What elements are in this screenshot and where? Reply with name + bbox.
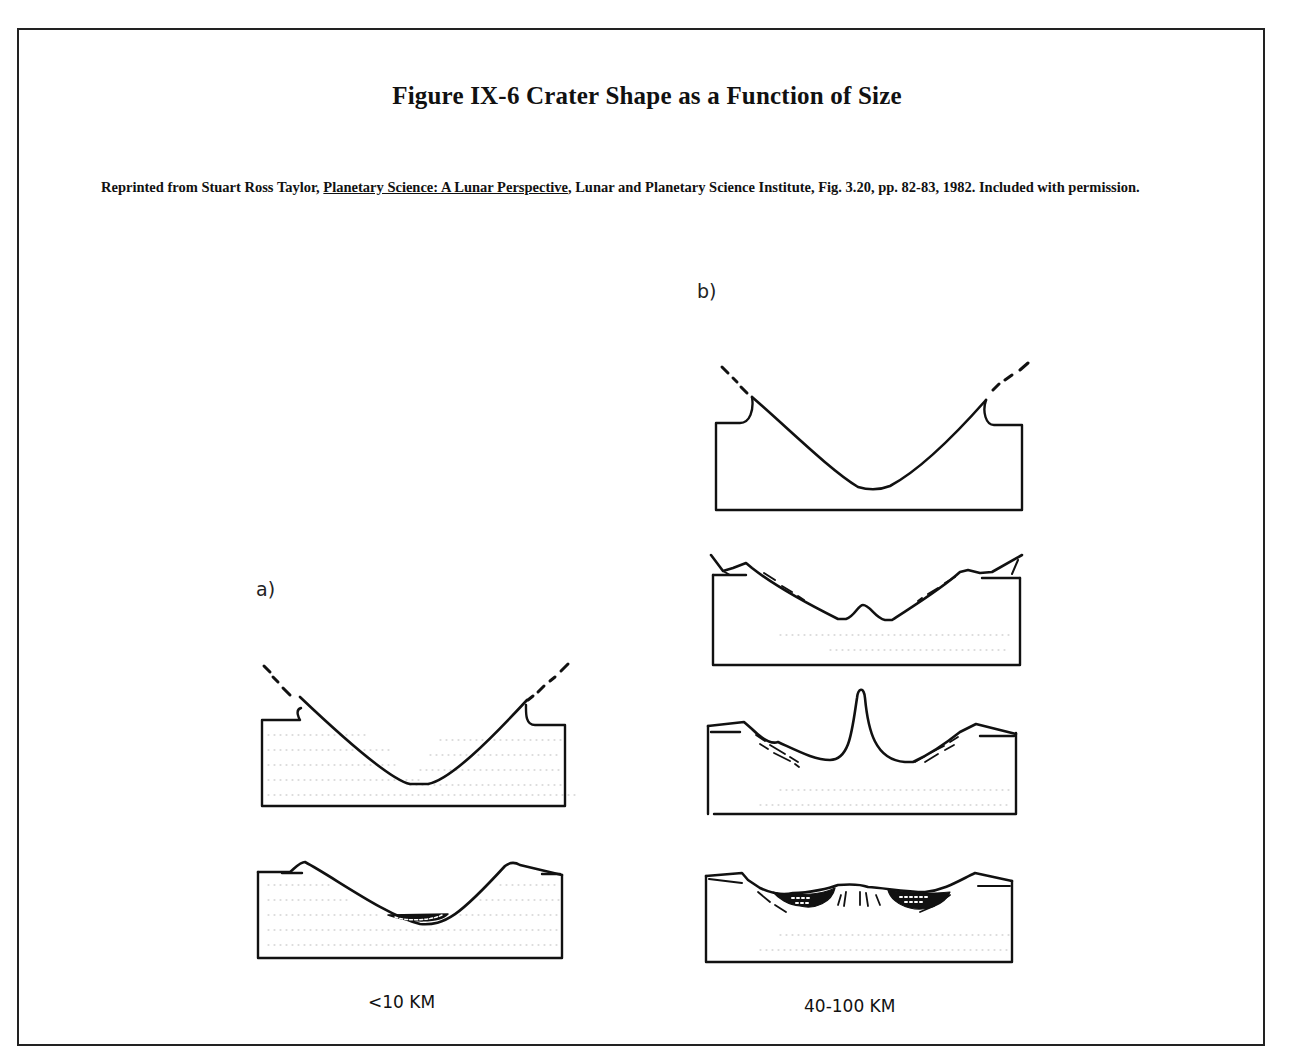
complex-crater-final-diagram: [706, 873, 1012, 962]
complex-crater-central-peak-diagram: [708, 690, 1016, 814]
complex-crater-rebound-diagram: [711, 555, 1022, 665]
simple-crater-transient-diagram: [262, 664, 580, 806]
simple-crater-final-diagram: [258, 862, 562, 958]
complex-crater-transient-diagram: [716, 363, 1028, 510]
crater-diagrams: [0, 0, 1294, 1058]
